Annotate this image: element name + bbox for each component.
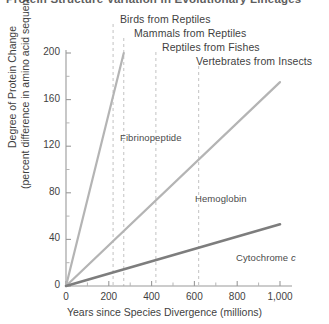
axis-lines [66,50,292,286]
y-tick-label: 40 [18,232,60,243]
divergence-marker-lines [113,24,199,286]
divergence-annotation-label: Reptiles from Fishes [162,41,260,53]
y-tick-label: 0 [18,279,60,290]
divergence-annotation-label: Mammals from Reptiles [134,27,246,39]
x-tick-label: 1,000 [255,291,305,302]
y-tick-label: 80 [18,186,60,197]
divergence-annotation-label: Birds from Reptiles [120,13,211,25]
y-tick-label: 160 [18,93,60,104]
series-label-fibrinopeptide: Fibrinopeptide [120,132,182,143]
y-tick-label: 120 [18,139,60,150]
series-label-cytochrome-c: Cytochrome c [236,252,296,263]
series-label-hemoglobin: Hemoglobin [195,193,247,204]
chart-figure: Protein Structure Variation in Evolution… [0,0,329,324]
y-tick-label: 200 [18,46,60,57]
x-axis-title: Years since Species Divergence (millions… [0,306,329,318]
divergence-annotation-label: Vertebrates from Insects [196,55,312,67]
